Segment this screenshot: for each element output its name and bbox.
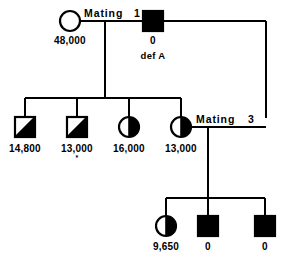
individual-III-3-male-filled-square xyxy=(255,216,275,236)
individual-II-4-female-half-filled-circle xyxy=(171,117,191,137)
individual-I-1-female-open-circle xyxy=(60,11,80,31)
mating1-label: Mating xyxy=(84,7,123,19)
generation-1-group: 48,000 0 def A Mating 1 xyxy=(54,7,266,118)
generation-2-group: 14,800 13,000 * 16,000 13,000 xyxy=(9,98,266,161)
individual-II-1-male-half-filled-square xyxy=(15,117,35,137)
individual-I-2-male-filled-square xyxy=(143,11,163,31)
pedigree-diagram: 48,000 0 def A Mating 1 14,800 xyxy=(0,0,297,258)
pedigree-chart: 48,000 0 def A Mating 1 14,800 xyxy=(0,0,297,258)
individual-I-1-value-label: 48,000 xyxy=(54,35,86,46)
individual-II-2-footnote-label: * xyxy=(76,154,79,161)
individual-II-2-male-half-filled-square xyxy=(67,117,87,137)
individual-II-4-value-label: 13,000 xyxy=(165,143,197,154)
individual-II-3-female-half-filled-circle xyxy=(119,117,139,137)
individual-III-1-female-half-filled-circle xyxy=(156,216,176,236)
individual-III-2-value-label: 0 xyxy=(205,241,211,252)
individual-II-3-value-label: 16,000 xyxy=(113,143,145,154)
individual-I-2-deficiency-label: def A xyxy=(141,50,166,61)
individual-III-3-value-label: 0 xyxy=(262,241,268,252)
mating1-number-label: 1 xyxy=(134,7,140,19)
individual-II-1-value-label: 14,800 xyxy=(9,143,41,154)
individual-I-2-value-label: 0 xyxy=(150,35,156,46)
individual-III-1-value-label: 9,650 xyxy=(153,241,179,252)
individual-III-2-male-filled-square xyxy=(198,216,218,236)
mating3-number-label: 3 xyxy=(248,113,254,125)
mating3-label: Mating xyxy=(196,113,235,125)
individual-II-2-value-label: 13,000 xyxy=(61,143,93,154)
